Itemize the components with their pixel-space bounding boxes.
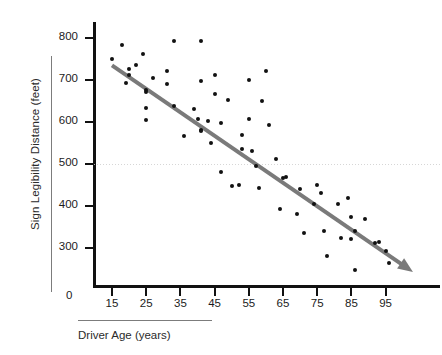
data-point bbox=[151, 76, 155, 80]
data-point bbox=[213, 92, 217, 96]
data-point bbox=[295, 212, 299, 216]
data-point bbox=[384, 249, 388, 253]
data-point bbox=[219, 170, 223, 174]
data-point bbox=[144, 106, 148, 110]
data-point bbox=[353, 268, 357, 272]
data-point bbox=[315, 183, 319, 187]
data-point bbox=[377, 240, 381, 244]
data-point bbox=[120, 43, 124, 47]
x-axis-title: Driver Age (years) bbox=[78, 329, 171, 341]
data-point bbox=[199, 129, 203, 133]
data-point bbox=[260, 99, 264, 103]
data-point bbox=[213, 73, 217, 77]
data-point bbox=[144, 90, 148, 94]
data-point bbox=[363, 217, 367, 221]
data-point bbox=[284, 175, 288, 179]
data-point bbox=[196, 117, 200, 121]
data-point bbox=[250, 149, 254, 153]
data-point bbox=[192, 107, 196, 111]
data-point bbox=[209, 141, 213, 145]
data-point bbox=[226, 98, 230, 102]
data-point bbox=[219, 121, 223, 125]
data-point bbox=[322, 229, 326, 233]
data-point bbox=[127, 67, 131, 71]
data-point bbox=[312, 202, 316, 206]
data-point bbox=[346, 196, 350, 200]
data-point bbox=[278, 207, 282, 211]
data-point bbox=[172, 104, 176, 108]
data-point bbox=[165, 82, 169, 86]
data-point bbox=[319, 191, 323, 195]
data-point bbox=[127, 73, 131, 77]
data-point bbox=[254, 164, 258, 168]
data-point bbox=[264, 69, 268, 73]
data-point bbox=[124, 81, 128, 85]
data-point bbox=[339, 236, 343, 240]
data-point bbox=[237, 183, 241, 187]
data-point bbox=[349, 237, 353, 241]
data-point bbox=[336, 202, 340, 206]
data-point bbox=[353, 229, 357, 233]
data-point bbox=[257, 186, 261, 190]
data-point bbox=[302, 231, 306, 235]
data-point bbox=[240, 133, 244, 137]
data-point bbox=[206, 119, 210, 123]
data-point bbox=[199, 39, 203, 43]
data-point bbox=[134, 63, 138, 67]
data-point bbox=[141, 52, 145, 56]
data-point bbox=[240, 147, 244, 151]
data-point bbox=[230, 184, 234, 188]
data-point bbox=[172, 39, 176, 43]
data-point bbox=[182, 134, 186, 138]
data-point bbox=[110, 57, 114, 61]
data-point bbox=[144, 118, 148, 122]
data-point bbox=[247, 117, 251, 121]
x-axis-title-rule bbox=[78, 320, 212, 321]
data-point bbox=[199, 79, 203, 83]
data-point bbox=[325, 254, 329, 258]
data-points-layer bbox=[0, 0, 442, 355]
data-point bbox=[274, 157, 278, 161]
data-point bbox=[298, 187, 302, 191]
data-point bbox=[387, 261, 391, 265]
scatter-plot-figure: Sign Legibility Distance (feet) 30040050… bbox=[0, 0, 442, 355]
data-point bbox=[267, 123, 271, 127]
data-point bbox=[165, 69, 169, 73]
data-point bbox=[247, 78, 251, 82]
data-point bbox=[349, 215, 353, 219]
